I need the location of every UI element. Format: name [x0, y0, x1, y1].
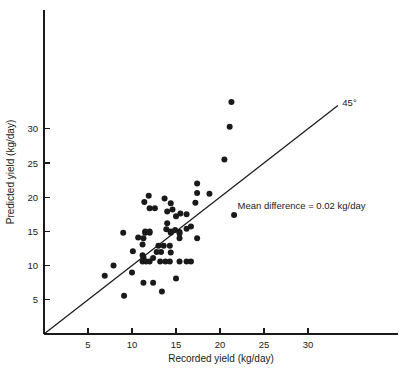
identity-line-label: 45° [342, 97, 357, 108]
data-point [152, 205, 158, 211]
x-axis-ticks: 51015202530 [85, 328, 313, 350]
x-tick-label: 30 [303, 339, 314, 350]
y-tick-label: 5 [33, 294, 38, 305]
x-axis-title: Recorded yield (kg/day) [168, 353, 274, 364]
data-point [147, 205, 153, 211]
y-tick-label: 15 [27, 226, 38, 237]
data-point [194, 235, 200, 241]
scatter-plot-figure: 51015202530 51015202530 Mean difference … [0, 0, 401, 374]
data-point [141, 199, 147, 205]
x-tick-label: 15 [171, 339, 182, 350]
data-point [192, 200, 198, 206]
y-tick-label: 20 [27, 192, 38, 203]
data-point [168, 200, 174, 206]
data-point [177, 258, 183, 264]
data-point [184, 211, 190, 217]
data-point [162, 196, 168, 202]
data-point [135, 235, 141, 241]
data-point [167, 243, 173, 249]
data-point [194, 181, 200, 187]
data-point [184, 226, 190, 232]
data-point [155, 243, 161, 249]
y-tick-label: 30 [27, 123, 38, 134]
data-point [173, 213, 179, 219]
y-axis-ticks: 51015202530 [27, 123, 50, 305]
data-point [161, 243, 167, 249]
data-point [157, 258, 163, 264]
data-point [150, 280, 156, 286]
x-tick-label: 20 [215, 339, 226, 350]
data-point [140, 280, 146, 286]
data-point [159, 289, 165, 295]
data-point [228, 99, 234, 105]
data-point [231, 212, 237, 218]
data-point [146, 193, 152, 199]
mean-difference-annotation: Mean difference = 0.02 kg/day [238, 200, 366, 211]
data-point [168, 250, 174, 256]
data-point [121, 293, 127, 299]
data-point [167, 258, 173, 264]
x-tick-label: 10 [127, 339, 138, 350]
data-point [147, 258, 153, 264]
data-point [169, 207, 175, 213]
data-point [164, 220, 170, 226]
data-points-group [102, 99, 237, 299]
data-point [111, 263, 117, 269]
data-point [221, 157, 227, 163]
data-point [173, 276, 179, 282]
data-point [130, 248, 136, 254]
plot-canvas: 51015202530 51015202530 Mean difference … [0, 0, 401, 374]
data-point [188, 258, 194, 264]
x-tick-label: 5 [85, 339, 90, 350]
data-point [140, 241, 146, 247]
x-tick-label: 25 [259, 339, 270, 350]
data-point [147, 230, 153, 236]
data-point [227, 124, 233, 130]
data-point [140, 235, 146, 241]
data-point [120, 230, 126, 236]
data-point [206, 191, 212, 197]
data-point [158, 249, 164, 255]
data-point [164, 209, 170, 215]
data-point [177, 235, 183, 241]
data-point [194, 190, 200, 196]
data-point [168, 230, 174, 236]
y-axis-title: Predicted yield (kg/day) [5, 120, 16, 225]
identity-line [44, 106, 338, 334]
data-point [102, 273, 108, 279]
y-tick-label: 10 [27, 260, 38, 271]
y-tick-label: 25 [27, 158, 38, 169]
data-point [129, 269, 135, 275]
axes-group [44, 10, 398, 334]
